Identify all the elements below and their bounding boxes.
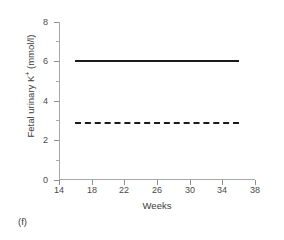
x-tick-label-34: 34 (210, 186, 234, 195)
panel-label: (f) (18, 216, 27, 227)
y-tick-minor-1 (56, 160, 59, 161)
x-tick-label-22: 22 (112, 186, 136, 195)
y-tick-2 (54, 140, 59, 141)
y-tick-minor-7 (56, 41, 59, 42)
series-line-dashed (75, 122, 238, 124)
x-tick-label-30: 30 (178, 186, 202, 195)
series-line-solid (75, 60, 238, 62)
y-axis-title-unit: (mmol/l) (25, 35, 36, 72)
y-tick-6 (54, 61, 59, 62)
x-axis-title: Weeks (59, 200, 255, 211)
figure-panel-f: 0 2 4 6 8 14 18 22 26 30 34 38 Fetal uri… (0, 0, 284, 240)
y-tick-label-0: 0 (26, 176, 48, 185)
plot-area (59, 22, 254, 179)
y-axis-spine (59, 22, 60, 180)
y-axis-title: Fetal urinary K+ (mmol/l) (24, 1, 36, 171)
y-tick-minor-5 (56, 81, 59, 82)
y-tick-4 (54, 101, 59, 102)
x-tick-label-26: 26 (145, 186, 169, 195)
y-axis-title-base: Fetal urinary K (25, 76, 36, 138)
y-tick-8 (54, 22, 59, 23)
y-axis-title-superscript: + (24, 72, 31, 76)
x-tick-label-14: 14 (47, 186, 71, 195)
x-tick-label-38: 38 (243, 186, 267, 195)
x-tick-label-18: 18 (80, 186, 104, 195)
y-tick-minor-3 (56, 120, 59, 121)
